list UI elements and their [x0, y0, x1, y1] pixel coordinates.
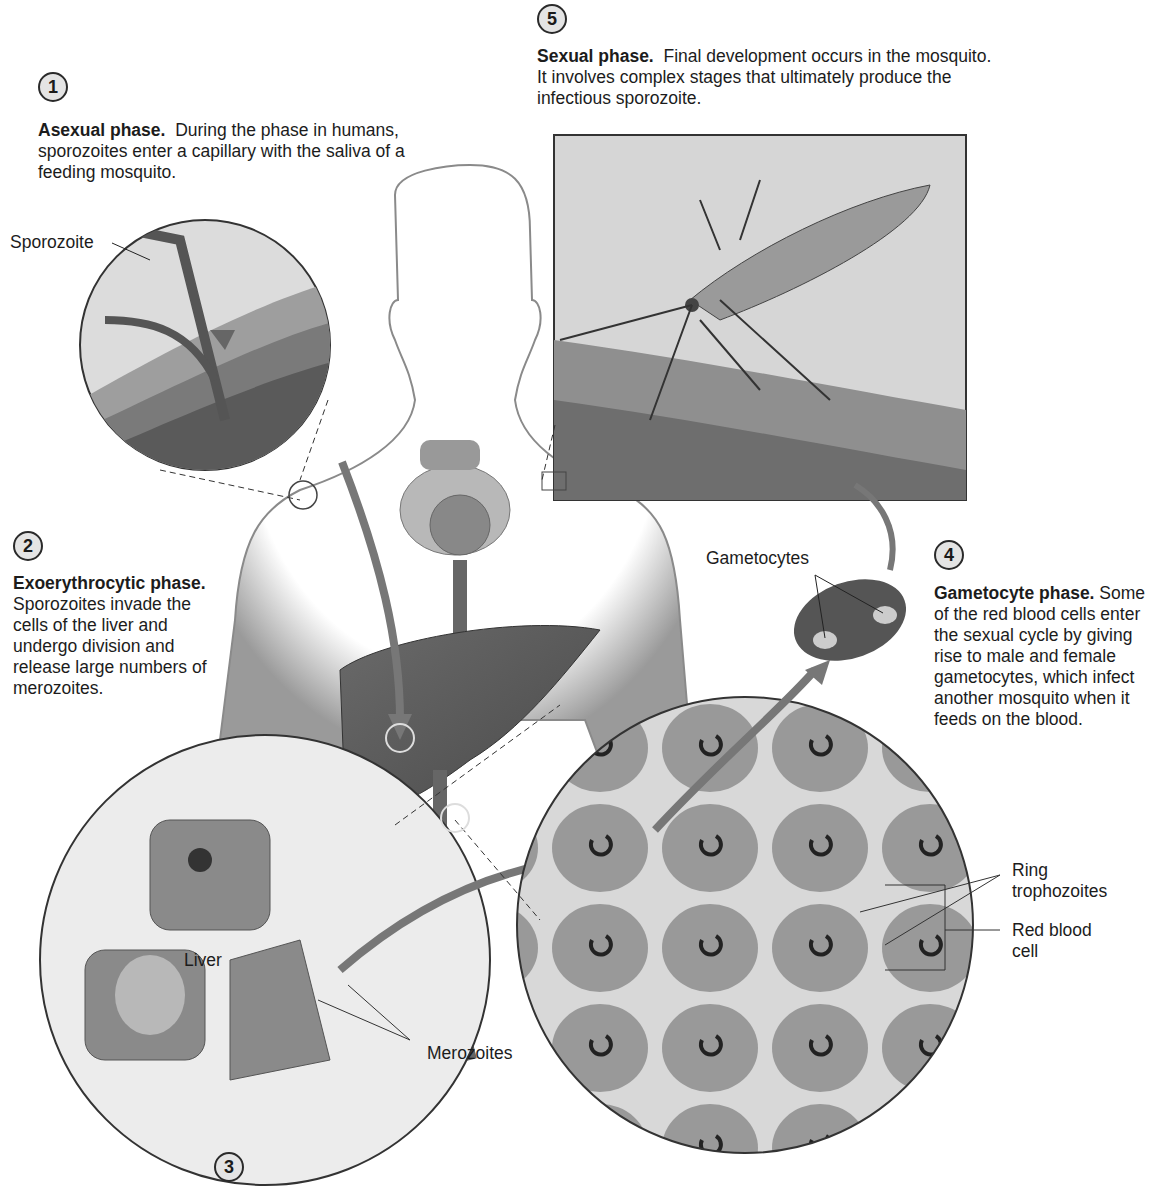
- zoom-circle-skin: [80, 220, 340, 509]
- step-2-text: Sporozoites invade the cells of the live…: [13, 594, 207, 698]
- ring-trophozoites-label: Ring trophozoites: [1012, 860, 1132, 902]
- step-1-badge: 1: [38, 72, 68, 102]
- mosquito-panel: [542, 135, 966, 500]
- step-4-heading: Gametocyte phase.: [934, 583, 1094, 603]
- liver-label: Liver: [184, 950, 222, 971]
- step-4-badge: 4: [934, 540, 964, 570]
- step-3-badge: 3: [214, 1152, 244, 1182]
- step-2-badge: 2: [13, 531, 43, 561]
- step-4-caption: Gametocyte phase. Some of the red blood …: [934, 583, 1164, 730]
- zoom-circle-liver: [40, 735, 490, 1185]
- step-5-badge: 5: [537, 4, 567, 34]
- gametocytes-label: Gametocytes: [706, 548, 809, 569]
- step-5-caption: Sexual phase. Final development occurs i…: [537, 46, 997, 109]
- step-5-heading: Sexual phase.: [537, 46, 654, 66]
- gametocyte-cell: [783, 564, 918, 675]
- merozoites-label: Merozoites: [427, 1043, 513, 1064]
- step-1-heading: Asexual phase.: [38, 120, 165, 140]
- sporozoite-label: Sporozoite: [10, 232, 94, 253]
- step-2-caption: Exoerythrocytic phase. Sporozoites invad…: [13, 573, 213, 699]
- step-4-text: Some of the red blood cells enter the se…: [934, 583, 1145, 729]
- red-blood-cell-label: Red blood cell: [1012, 920, 1112, 962]
- step-2-heading: Exoerythrocytic phase.: [13, 573, 206, 593]
- step-1-caption: Asexual phase. During the phase in human…: [38, 120, 438, 183]
